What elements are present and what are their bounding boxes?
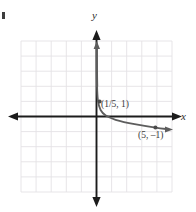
x-axis-left-arrowhead bbox=[8, 112, 18, 120]
point-label-five-negative-one: (5, –1) bbox=[138, 131, 163, 141]
function-curve-group bbox=[94, 41, 173, 133]
y-axis-bottom-arrowhead bbox=[92, 197, 100, 207]
curve-top-arrowhead bbox=[94, 41, 100, 49]
coordinate-plane bbox=[0, 0, 196, 212]
y-axis-top-arrowhead bbox=[92, 30, 100, 40]
y-axis-label: y bbox=[92, 10, 97, 21]
point-label-one-fifth-one: (1/5, 1) bbox=[101, 100, 129, 110]
point-marker-2 bbox=[153, 126, 157, 130]
x-axis-label: x bbox=[181, 111, 186, 122]
graph-figure: y x (1/5, 1) (5, –1) bbox=[0, 0, 196, 212]
